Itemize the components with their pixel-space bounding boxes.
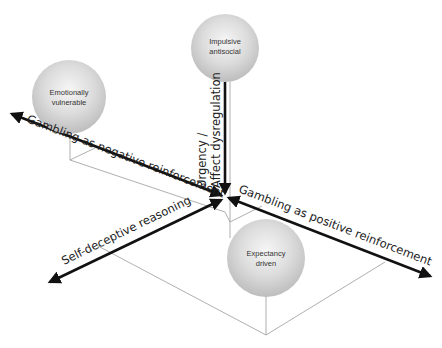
node-expectancy-line1: Expectancy — [247, 249, 286, 258]
node-impulsive-line1: Impulsive — [209, 37, 241, 46]
node-expectancy: Expectancy driven — [227, 219, 305, 297]
sphere-expectancy — [227, 219, 305, 297]
node-emotional-line2: vulnerable — [52, 98, 87, 107]
node-impulsive-line2: antisocial — [209, 47, 241, 56]
axis-label-self-deceptive: Self-deceptive reasoning — [59, 193, 193, 268]
axis-self-deceptive — [50, 200, 221, 282]
typology-axes-diagram: Impulsive antisocial Emotionally vulnera… — [0, 0, 442, 348]
axis-label-urgency-line2: Affect dysregulation — [209, 72, 223, 188]
node-emotional-line1: Emotionally — [50, 88, 89, 97]
guide-lines — [70, 82, 385, 335]
node-impulsive: Impulsive antisocial — [191, 14, 259, 82]
guide-emotional-base-3 — [225, 212, 230, 222]
node-expectancy-line2: driven — [256, 259, 276, 268]
